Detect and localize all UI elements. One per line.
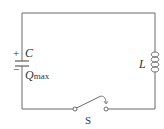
switch-contact-right <box>104 107 108 111</box>
capacitor-plus-sign: + <box>13 48 19 59</box>
capacitor-label: C <box>25 47 33 59</box>
inductor-coil <box>151 52 159 72</box>
charge-subscript: max <box>34 71 50 81</box>
inductor-label: L <box>139 58 146 70</box>
switch-label: S <box>85 115 91 126</box>
switch-blade <box>77 96 102 108</box>
charge-symbol: Q <box>25 68 34 82</box>
capacitor-minus-sign: − <box>13 64 19 75</box>
switch-arrow <box>101 96 106 103</box>
charge-label: Qmax <box>25 69 49 81</box>
